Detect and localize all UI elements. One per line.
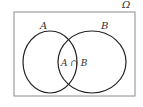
universe-label: Ω <box>121 0 130 10</box>
set-b-label: B <box>100 20 108 31</box>
intersection-label: A ∩ B <box>60 58 88 68</box>
venn-diagram: Ω A B A ∩ B <box>0 0 143 107</box>
set-a-label: A <box>39 20 47 31</box>
